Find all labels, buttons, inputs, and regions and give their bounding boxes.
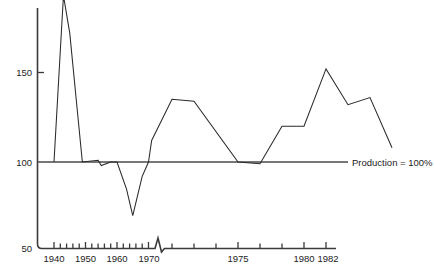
x-axis (46, 238, 336, 252)
x-tick-marks (54, 242, 326, 249)
y-tick-label-150: 150 (16, 67, 32, 78)
x-tick-label-1980: 1980 (293, 253, 314, 264)
x-tick-label-1960: 1960 (106, 253, 127, 264)
x-tick-label-1975: 1975 (227, 253, 248, 264)
reference-line-label: Production = 100% (352, 157, 433, 168)
x-tick-label-1950: 1950 (75, 253, 96, 264)
data-line-production-index (54, 0, 392, 216)
x-tick-label-1940: 1940 (43, 253, 64, 264)
chart-canvas: 150 100 50 Production = 100% (0, 0, 434, 271)
x-tick-label-1970: 1970 (138, 253, 159, 264)
production-index-line-chart: 150 100 50 Production = 100% (0, 0, 434, 271)
y-tick-label-100: 100 (16, 157, 32, 168)
x-tick-label-1982: 1982 (317, 253, 338, 264)
y-axis (38, 8, 47, 249)
y-tick-label-50: 50 (21, 243, 32, 254)
